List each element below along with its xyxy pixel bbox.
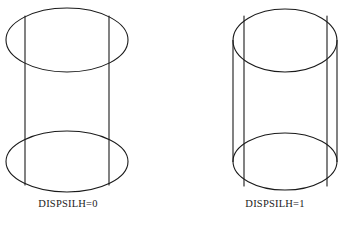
diagram-background (0, 0, 348, 226)
right-cylinder-caption: DISPSILH=1 (205, 198, 345, 210)
cylinder-diagram (0, 0, 348, 226)
left-cylinder-caption: DISPSILH=0 (0, 198, 136, 210)
figure-container: DISPSILH=0 DISPSILH=1 (0, 0, 348, 226)
